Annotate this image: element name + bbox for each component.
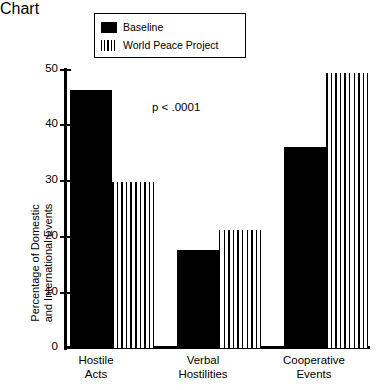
y-axis-label-20: 20 xyxy=(18,230,58,242)
x-axis-category-cooperative-events-line-1: Cooperative xyxy=(262,354,366,368)
x-axis-category-cooperative-events: Cooperative Events xyxy=(262,354,366,381)
y-axis-label-0: 0 xyxy=(18,341,58,353)
x-axis-category-cooperative-events-line-2: Events xyxy=(262,368,366,382)
x-axis-category-verbal-hostilities: Verbal Hostilities xyxy=(155,354,251,381)
chart-legend: Baseline World Peace Project xyxy=(94,13,246,58)
x-axis-category-verbal-hostilities-line-1: Verbal xyxy=(155,354,251,368)
plot-area xyxy=(67,70,369,348)
legend-label-world-peace-project: World Peace Project xyxy=(123,40,219,51)
legend-striped-swatch-icon xyxy=(101,40,117,51)
bar-baseline-hostile-acts xyxy=(70,90,112,349)
x-axis-category-hostile-acts: Hostile Acts xyxy=(48,354,144,381)
legend-solid-swatch-icon xyxy=(101,22,117,33)
y-axis-tick-labels: 50 40 30 20 10 0 xyxy=(16,0,58,390)
legend-entry-world-peace-project: World Peace Project xyxy=(101,36,239,54)
bar-baseline-cooperative-events xyxy=(284,147,326,348)
y-axis-label-50: 50 xyxy=(18,63,58,75)
y-axis-label-40: 40 xyxy=(18,118,58,130)
bar-world-peace-project-verbal-hostilities xyxy=(219,230,261,348)
x-axis-category-hostile-acts-line-2: Acts xyxy=(48,368,144,382)
x-axis-category-hostile-acts-line-1: Hostile xyxy=(48,354,144,368)
bar-world-peace-project-cooperative-events xyxy=(326,73,368,348)
x-axis-category-verbal-hostilities-line-2: Hostilities xyxy=(155,368,251,382)
bar-world-peace-project-hostile-acts xyxy=(112,182,154,348)
y-axis-label-30: 30 xyxy=(18,174,58,186)
bar-baseline-verbal-hostilities xyxy=(177,250,219,348)
bar-chart-figure: Baseline World Peace Project Percentage … xyxy=(0,0,377,390)
y-axis-label-10: 10 xyxy=(18,286,58,298)
legend-label-baseline: Baseline xyxy=(123,22,163,33)
legend-entry-baseline: Baseline xyxy=(101,18,239,36)
